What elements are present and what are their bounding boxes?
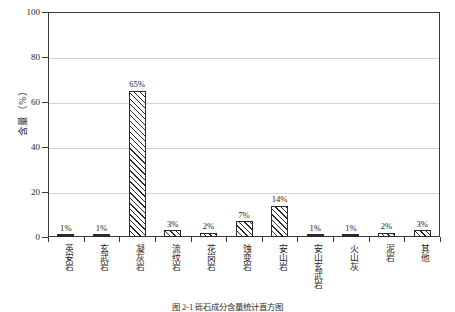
bar[interactable] — [200, 233, 217, 238]
bar-slot: 2% — [200, 12, 217, 237]
bar-value-label: 14% — [272, 195, 288, 204]
x-tick-mark — [440, 237, 441, 242]
bar-slot: 14% — [271, 12, 288, 237]
bar[interactable] — [57, 234, 74, 237]
x-category-label: 安山玄武岩 — [309, 244, 322, 289]
bar-value-label: 1% — [310, 224, 321, 233]
bar-value-label: 3% — [167, 220, 178, 229]
x-category-label: 蚀变岩 — [238, 244, 251, 271]
x-tick-mark — [155, 237, 156, 242]
bar-slot: 3% — [414, 12, 431, 237]
x-tick-mark — [119, 237, 120, 242]
y-tick-label: 0 — [0, 233, 40, 242]
y-tick-label: 100 — [0, 8, 40, 17]
bar-value-label: 7% — [238, 211, 249, 220]
bar-value-label: 1% — [345, 224, 356, 233]
bar[interactable] — [129, 91, 146, 237]
bar-slot: 3% — [164, 12, 181, 237]
y-tick-label: 20 — [0, 188, 40, 197]
x-tick-mark — [333, 237, 334, 242]
x-tick-mark — [404, 237, 405, 242]
x-category-label: 安山岩 — [273, 244, 286, 271]
x-category-label: 流纹岩 — [166, 244, 179, 271]
bar[interactable] — [236, 221, 253, 237]
x-tick-mark — [226, 237, 227, 242]
x-category-label: 玄武岩 — [95, 244, 108, 271]
x-tick-mark — [84, 237, 85, 242]
x-category-label: 英安岩 — [59, 244, 72, 271]
bar-slot: 1% — [93, 12, 110, 237]
bar[interactable] — [414, 230, 431, 237]
x-category-label: 花岗岩 — [202, 244, 215, 271]
x-category-label: 其他 — [416, 244, 429, 262]
bar-value-label: 2% — [381, 222, 392, 231]
x-tick-mark — [297, 237, 298, 242]
bar-series: 1%1%65%3%2%7%14%1%1%2%3% — [48, 12, 440, 237]
bar-slot: 65% — [129, 12, 146, 237]
bar-slot: 1% — [307, 12, 324, 237]
bar[interactable] — [164, 230, 181, 237]
bar[interactable] — [378, 233, 395, 238]
bar-value-label: 2% — [203, 222, 214, 231]
x-tick-mark — [369, 237, 370, 242]
x-tick-mark — [191, 237, 192, 242]
bar-slot: 2% — [378, 12, 395, 237]
bar-value-label: 1% — [60, 224, 71, 233]
bar[interactable] — [307, 234, 324, 237]
bar[interactable] — [271, 206, 288, 238]
bar-slot: 1% — [342, 12, 359, 237]
y-tick-label: 80 — [0, 53, 40, 62]
bar-slot: 1% — [57, 12, 74, 237]
bar-slot: 7% — [236, 12, 253, 237]
bar-value-label: 65% — [129, 80, 145, 89]
y-tick-label: 40 — [0, 143, 40, 152]
x-category-label: 凝灰岩 — [131, 244, 144, 271]
y-tick-label: 60 — [0, 98, 40, 107]
x-category-label: 火山灰 — [344, 244, 357, 271]
figure-caption: 图 2-1 砾石成分含量统计直方图 — [0, 300, 455, 312]
x-tick-mark — [262, 237, 263, 242]
bar-value-label: 1% — [96, 224, 107, 233]
x-tick-mark — [48, 237, 49, 242]
bar[interactable] — [93, 234, 110, 237]
bar[interactable] — [342, 234, 359, 237]
x-category-label: 泥岩 — [380, 244, 393, 262]
bar-value-label: 3% — [416, 220, 427, 229]
